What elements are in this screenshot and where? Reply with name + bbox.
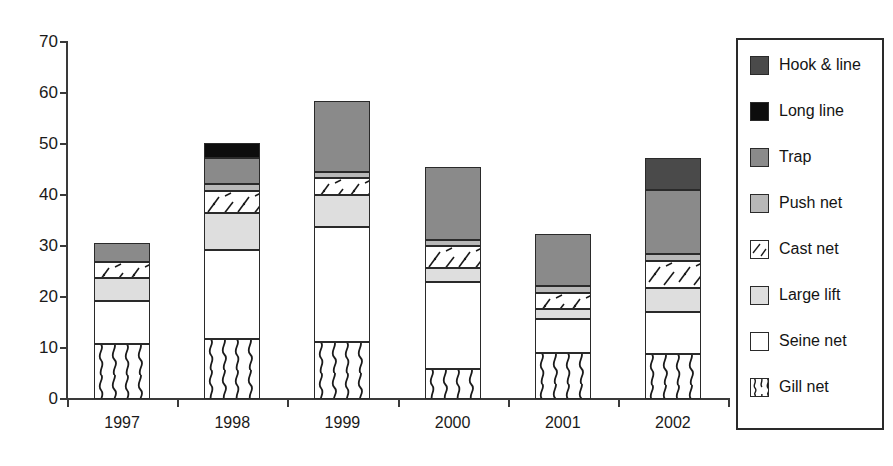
chart-root: 010203040506070 199719981999200020012002… [0,0,893,466]
y-axis-tick-label: 20 [22,288,58,305]
bar-segment-2001-gill-net [536,353,590,399]
y-axis-tick [60,92,68,94]
x-axis-tick [508,398,510,407]
legend-item-label: Hook & line [779,56,861,74]
x-axis-tick [728,398,730,407]
y-axis-tick-label-wrap: 10 [0,339,58,356]
bar-segment-1998-large-lift [205,213,259,250]
y-axis-tick-label-wrap: 20 [0,288,58,305]
y-axis-tick-label: 70 [22,33,58,50]
y-axis-tick [60,143,68,145]
bar-segment-1998-trap [205,158,259,184]
bar-segment-1999-push-net [315,172,369,178]
x-axis-tick [398,398,400,407]
legend-item-cast-net[interactable]: Cast net [750,238,882,260]
legend-box: Hook & lineLong lineTrapPush netCast net… [736,38,884,430]
legend-item-label: Trap [779,148,811,166]
y-axis-tick [60,194,68,196]
x-axis-tick [287,398,289,407]
legend-swatch-icon [750,194,769,213]
bar-segment-1997-trap [95,243,149,261]
legend-swatch-icon [750,286,769,305]
y-axis-tick [60,347,68,349]
bar-segment-2002-gill-net [646,354,700,399]
bar-segment-1998-long-line [205,143,259,158]
legend-item-label: Cast net [779,240,839,258]
y-axis-tick-label: 40 [22,186,58,203]
bar-segment-1998-cast-net [205,191,259,213]
x-axis-label-2002: 2002 [621,414,725,432]
bar-segment-1999-seine-net [315,227,369,342]
y-axis-tick-label-wrap: 70 [0,33,58,50]
bar-1997 [94,243,150,399]
y-axis-tick-label: 50 [22,135,58,152]
bar-1998 [204,143,260,399]
bar-segment-2000-gill-net [426,369,480,399]
bar-segment-1998-gill-net [205,339,259,399]
legend-swatch-icon [750,240,769,259]
y-axis-tick-label-wrap: 30 [0,237,58,254]
legend-item-seine-net[interactable]: Seine net [750,330,882,352]
y-axis-tick-label: 10 [22,339,58,356]
bar-segment-2002-large-lift [646,288,700,312]
x-axis-label-1997: 1997 [70,414,174,432]
bar-2000 [425,167,481,399]
bar-segment-2002-seine-net [646,312,700,354]
bar-segment-2000-large-lift [426,268,480,282]
bar-segment-2002-push-net [646,254,700,261]
legend-swatch-icon [750,378,769,397]
bar-segment-2002-cast-net [646,261,700,288]
bar-segment-1998-seine-net [205,250,259,340]
bar-segment-2000-cast-net [426,246,480,267]
legend-item-gill-net[interactable]: Gill net [750,376,882,398]
legend-swatch-icon [750,56,769,75]
bar-segment-1997-seine-net [95,301,149,344]
legend-item-label: Seine net [779,332,847,350]
bar-segment-2001-trap [536,234,590,286]
x-axis-label-1998: 1998 [180,414,284,432]
y-axis-tick-label: 60 [22,84,58,101]
y-axis-tick-label-wrap: 0 [0,390,58,407]
legend-item-label: Large lift [779,286,840,304]
legend-item-large-lift[interactable]: Large lift [750,284,882,306]
x-axis-label-1999: 1999 [290,414,394,432]
y-axis-tick-label-wrap: 40 [0,186,58,203]
bar-segment-2002-trap [646,190,700,254]
legend-item-hook-line[interactable]: Hook & line [750,54,882,76]
legend-item-label: Push net [779,194,842,212]
legend-item-long-line[interactable]: Long line [750,100,882,122]
bar-segment-2001-seine-net [536,319,590,353]
legend-item-push-net[interactable]: Push net [750,192,882,214]
bar-segment-1999-cast-net [315,178,369,195]
y-axis-tick [60,41,68,43]
y-axis-tick [60,296,68,298]
bar-segment-1998-push-net [205,184,259,191]
legend-item-label: Long line [779,102,844,120]
y-axis-tick-label: 30 [22,237,58,254]
legend-item-trap[interactable]: Trap [750,146,882,168]
x-axis-tick [177,398,179,407]
plot-area: 010203040506070 199719981999200020012002 [0,0,735,466]
legend-swatch-icon [750,332,769,351]
bar-1999 [314,101,370,399]
bar-segment-2000-push-net [426,240,480,246]
bar-segment-2000-seine-net [426,282,480,369]
x-axis-tick [67,398,69,407]
bar-segment-2001-push-net [536,286,590,293]
bar-2002 [645,158,701,399]
legend-item-label: Gill net [779,378,829,396]
bar-segment-1999-trap [315,101,369,172]
bar-segment-2001-cast-net [536,293,590,309]
x-axis-label-2000: 2000 [401,414,505,432]
bar-segment-2002-hook-line [646,158,700,190]
bar-segment-1997-large-lift [95,278,149,301]
legend-swatch-icon [750,102,769,121]
x-axis-tick [618,398,620,407]
y-axis-tick-label: 0 [22,390,58,407]
y-axis-tick-label-wrap: 50 [0,135,58,152]
legend-swatch-icon [750,148,769,167]
y-axis-tick-label-wrap: 60 [0,84,58,101]
bar-2001 [535,234,591,399]
y-axis-tick [60,245,68,247]
x-axis-label-2001: 2001 [511,414,615,432]
